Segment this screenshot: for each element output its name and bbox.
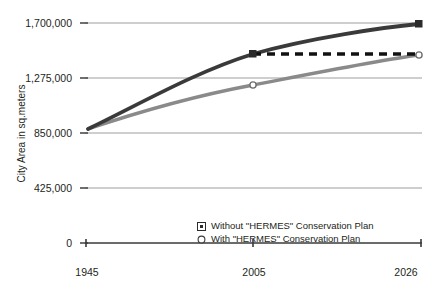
data-point-marker-circle bbox=[250, 82, 256, 88]
circle-icon bbox=[197, 235, 206, 244]
series-line-with-hermes bbox=[88, 55, 419, 129]
legend: Without "HERMES" Conservation Plan With … bbox=[197, 220, 374, 246]
square-dot-icon bbox=[197, 222, 206, 231]
legend-item-without-hermes: Without "HERMES" Conservation Plan bbox=[197, 220, 374, 232]
chart-container: City Area in sq.meters 1,700,000 1,275,0… bbox=[0, 0, 436, 292]
data-point-marker-square bbox=[415, 20, 423, 28]
y-tick-marks bbox=[80, 23, 88, 243]
legend-item-with-hermes: With "HERMES" Conservation Plan bbox=[197, 233, 374, 245]
data-point-marker-square bbox=[249, 50, 257, 58]
legend-label: Without "HERMES" Conservation Plan bbox=[211, 220, 374, 232]
plot-area bbox=[0, 0, 436, 292]
data-point-marker-circle bbox=[416, 52, 422, 58]
legend-label: With "HERMES" Conservation Plan bbox=[211, 233, 360, 245]
